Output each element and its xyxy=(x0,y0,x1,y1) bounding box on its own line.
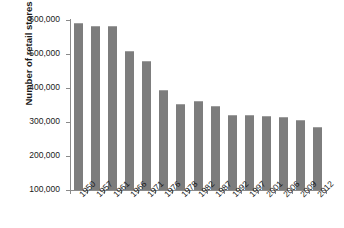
bar xyxy=(125,51,134,190)
y-axis-tick: 200,000 xyxy=(66,156,70,157)
bar xyxy=(176,104,185,190)
bar xyxy=(159,90,168,190)
retail-stores-bar-chart: Number of retail stores 100,000200,00030… xyxy=(0,0,344,228)
bar xyxy=(279,117,288,190)
y-axis-tick-label: 100,000 xyxy=(29,184,60,194)
bar xyxy=(74,23,83,190)
y-axis-tick-label: 400,000 xyxy=(29,82,60,92)
y-axis-tick: 500,000 xyxy=(66,54,70,55)
y-axis-tick-label: 200,000 xyxy=(29,150,60,160)
bar xyxy=(296,120,305,190)
y-axis-tick: 300,000 xyxy=(66,122,70,123)
y-axis-tick: 400,000 xyxy=(66,88,70,89)
bar xyxy=(211,106,220,190)
y-axis-tick: 600,000 xyxy=(66,20,70,21)
bar xyxy=(108,26,117,190)
y-axis-tick-label: 500,000 xyxy=(29,48,60,58)
bar xyxy=(228,115,237,190)
bar xyxy=(262,116,271,190)
x-axis-tick xyxy=(70,190,71,194)
bar xyxy=(142,61,151,190)
bar xyxy=(194,101,203,190)
plot-area: 100,000200,000300,000400,000500,000600,0… xyxy=(70,20,326,190)
bar xyxy=(245,115,254,190)
y-axis-tick-label: 300,000 xyxy=(29,116,60,126)
y-axis-tick-label: 600,000 xyxy=(29,14,60,24)
bar xyxy=(91,26,100,190)
